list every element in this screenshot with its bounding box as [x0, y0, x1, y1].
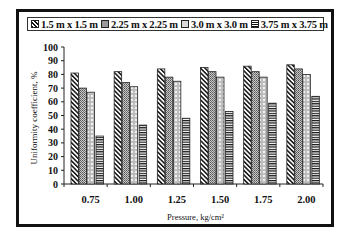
bar — [71, 73, 79, 184]
bar — [139, 125, 147, 184]
bar — [79, 88, 87, 184]
bar — [303, 74, 311, 184]
x-tick-label: 1.75 — [254, 194, 272, 205]
bar — [157, 69, 165, 184]
x-tick-label: 1.00 — [125, 194, 143, 205]
bar — [295, 69, 303, 184]
y-tick-label: 30 — [48, 137, 58, 148]
y-axis-title: Uniformity coefficient, % — [29, 71, 39, 165]
x-axis-title: Pressure, kg/cm² — [167, 212, 224, 222]
x-tick-label: 0.75 — [81, 194, 99, 205]
y-tick-label: 50 — [48, 110, 58, 121]
x-tick-label: 2.00 — [297, 194, 315, 205]
bar — [96, 136, 104, 184]
bar — [87, 92, 95, 184]
bar — [209, 72, 217, 184]
y-tick-label: 10 — [48, 165, 58, 176]
bar — [226, 111, 234, 184]
bar — [182, 118, 190, 184]
y-tick-label: 100 — [43, 42, 58, 53]
bar — [252, 72, 260, 184]
bar — [244, 66, 252, 184]
bar — [312, 96, 320, 184]
bar — [260, 77, 268, 184]
y-tick-label: 70 — [48, 83, 58, 94]
bar — [122, 83, 129, 184]
bar — [114, 72, 122, 184]
bar — [217, 77, 225, 184]
y-tick-label: 60 — [48, 96, 58, 107]
x-tick-label: 1.25 — [168, 194, 186, 205]
y-tick-label: 80 — [48, 69, 58, 80]
bar — [201, 68, 209, 184]
bar — [165, 77, 173, 184]
y-tick-label: 20 — [48, 151, 58, 162]
y-tick-label: 40 — [48, 124, 58, 135]
bar — [173, 81, 181, 184]
bar — [130, 87, 138, 184]
y-tick-label: 90 — [48, 55, 58, 66]
y-tick-label: 0 — [53, 179, 58, 190]
bars — [71, 65, 319, 184]
bar — [287, 65, 295, 184]
x-tick-label: 1.50 — [211, 194, 229, 205]
bar — [269, 103, 277, 184]
bar-chart: 01020304050607080901000.751.001.251.501.… — [0, 0, 345, 241]
